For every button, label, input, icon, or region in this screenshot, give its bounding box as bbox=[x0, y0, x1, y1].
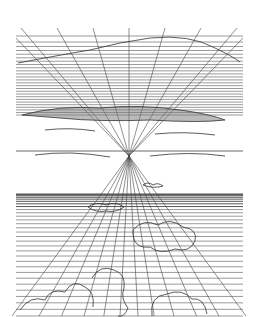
band-cloud bbox=[22, 106, 225, 121]
bottom-cloud-right bbox=[152, 292, 207, 316]
mid-cloud-right bbox=[155, 133, 215, 135]
mid-cloud-left bbox=[45, 129, 95, 131]
horizontal-lines bbox=[16, 36, 243, 316]
perspective-rays bbox=[12, 28, 246, 316]
perspective-cloud-drawing bbox=[0, 0, 255, 317]
